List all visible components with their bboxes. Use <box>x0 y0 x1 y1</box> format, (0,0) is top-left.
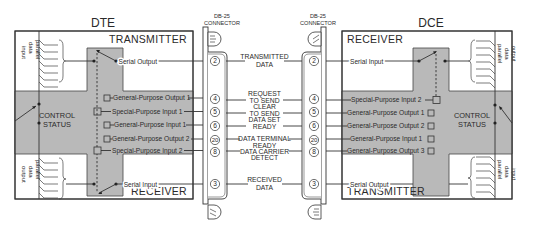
left-connector-label-2: CONNECTOR <box>204 20 240 26</box>
dte-parallel-input-label-3: parallel <box>35 40 41 59</box>
left-pin-4: 4 <box>213 95 217 102</box>
dte-control-line-5: Special-Purpose Input 2 <box>112 147 183 155</box>
dce-control-line-3: General-Purpose Output 2 <box>347 122 425 130</box>
right-db25-connector: DB-25 CONNECTOR <box>300 13 336 219</box>
dte-control-line-3: General-Purpose Input 1 <box>114 121 187 129</box>
signal-label: TRANSMITTED <box>240 53 288 60</box>
dce-parallel-input-label-1: parallel <box>497 160 503 179</box>
dte-status-label: STATUS <box>43 120 71 129</box>
signal-label: RECEIVED <box>247 176 282 183</box>
dte-parallel-input-label-2: data <box>28 42 34 54</box>
dte-control-line-2: Special-Purpose Input 1 <box>112 108 183 116</box>
dce-control-label: CONTROL <box>454 111 490 120</box>
signal-label: DATA <box>256 184 274 191</box>
left-pin-8: 8 <box>213 148 217 155</box>
right-connector-label-2: CONNECTOR <box>300 20 336 26</box>
left-connector-label-1: DB-25 <box>214 13 230 19</box>
dce-block: DCE RECEIVER TRANSMITTER parallel data o… <box>326 16 517 199</box>
signal-label: DETECT <box>251 154 278 161</box>
dte-control-line-1: General-Purpose Output 1 <box>113 94 191 102</box>
dte-serial-output-label: Serial Output <box>119 58 158 66</box>
right-pin-8: 8 <box>312 148 316 155</box>
right-pin-20: 20 <box>311 137 318 143</box>
right-pin-5: 5 <box>312 108 316 115</box>
dte-control-line-4: General-Purpose Output 2 <box>112 135 190 143</box>
right-pin-2: 2 <box>312 57 316 64</box>
dce-status-label: STATUS <box>458 120 486 129</box>
dce-parallel-output-label-1: parallel <box>497 44 503 63</box>
dce-serial-input-label: Serial Input <box>350 58 384 66</box>
dte-parallel-output-label-3: parallel <box>35 160 41 179</box>
dce-parallel-output-label-3: output <box>511 46 517 62</box>
dte-title: DTE <box>91 16 115 30</box>
right-pin-6: 6 <box>312 122 316 129</box>
dce-title: DCE <box>418 16 443 30</box>
dce-control-line-5: General-Purpose Output 3 <box>347 147 425 155</box>
left-pin-5: 5 <box>213 108 217 115</box>
rs232-dte-dce-diagram: DTE TRANSMITTER RECEIVER input data para… <box>0 0 534 232</box>
dce-parallel-input-label-3: input <box>511 168 517 180</box>
dce-parallel-output-label-2: data <box>504 48 510 60</box>
left-pin-2: 2 <box>213 57 217 64</box>
left-pin-20: 20 <box>212 137 219 143</box>
dte-control-label: CONTROL <box>39 111 75 120</box>
dce-receiver-label: RECEIVER <box>347 33 403 45</box>
dte-serial-input-label: Serial Input <box>124 181 158 189</box>
dce-serial-output-label: Serial Output <box>350 181 389 189</box>
dte-parallel-input-label-1: input <box>21 46 27 59</box>
signal-label: DATA <box>256 61 274 68</box>
dte-block: DTE TRANSMITTER RECEIVER input data para… <box>15 16 203 199</box>
dce-control-line-1: Special-Purpose Input 2 <box>351 96 422 104</box>
left-db25-connector: DB-25 CONNECTOR <box>203 13 240 219</box>
right-connector-label-1: DB-25 <box>310 13 326 19</box>
dce-control-line-4: General-Purpose Input 1 <box>350 135 423 143</box>
dte-parallel-output-label-1: output <box>21 166 27 183</box>
right-pin-4: 4 <box>312 95 316 102</box>
dte-parallel-output-label-2: data <box>28 166 34 178</box>
dce-parallel-input-label-2: data <box>504 166 510 178</box>
dce-control-line-2: General-Purpose Output 1 <box>347 109 425 117</box>
signal-label: READY <box>253 123 277 130</box>
right-pin-3: 3 <box>312 180 316 187</box>
left-pin-6: 6 <box>213 122 217 129</box>
dte-transmitter-label: TRANSMITTER <box>109 33 187 45</box>
left-pin-3: 3 <box>213 180 217 187</box>
